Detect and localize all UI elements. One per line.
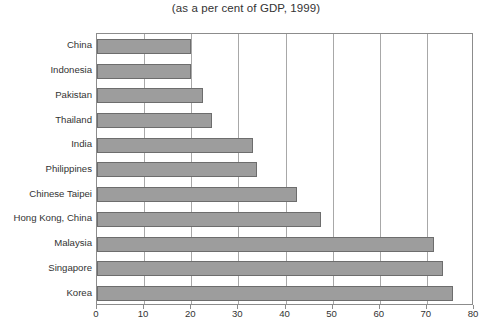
x-axis-label: 10 <box>123 308 163 319</box>
x-axis-tick <box>96 305 97 309</box>
bar-row <box>97 133 472 158</box>
bar-row <box>97 232 472 257</box>
y-axis-label: Pakistan <box>0 89 92 101</box>
x-axis-tick <box>190 305 191 309</box>
bar-row <box>97 83 472 108</box>
bar <box>97 286 453 301</box>
bar <box>97 138 253 153</box>
bar-row <box>97 59 472 84</box>
bar-row <box>97 182 472 207</box>
y-axis-label: India <box>0 138 92 150</box>
bar-row <box>97 108 472 133</box>
bar-row <box>97 257 472 282</box>
bar <box>97 39 191 54</box>
bar <box>97 212 321 227</box>
bar <box>97 187 297 202</box>
y-axis-label: Chinese Taipei <box>0 188 92 200</box>
bar <box>97 261 443 276</box>
bar-series <box>97 34 472 304</box>
y-axis-label: Philippines <box>0 163 92 175</box>
x-axis-label: 70 <box>406 308 446 319</box>
x-axis-label: 80 <box>453 308 492 319</box>
y-axis-label: Indonesia <box>0 64 92 76</box>
y-axis-label: Thailand <box>0 114 92 126</box>
bar-row <box>97 207 472 232</box>
bar <box>97 113 212 128</box>
x-axis-label: 20 <box>170 308 210 319</box>
bar-row <box>97 34 472 59</box>
x-axis-tick <box>379 305 380 309</box>
bar-row <box>97 158 472 183</box>
y-axis-label: Korea <box>0 287 92 299</box>
x-axis-tick <box>143 305 144 309</box>
x-axis-label: 50 <box>312 308 352 319</box>
plot-area <box>96 33 473 305</box>
x-axis-tick <box>426 305 427 309</box>
y-axis-label: Singapore <box>0 262 92 274</box>
x-axis-label: 30 <box>217 308 257 319</box>
y-axis-label: Hong Kong, China <box>0 212 92 224</box>
x-axis-label: 60 <box>359 308 399 319</box>
x-axis-tick-labels: 01020304050607080 <box>0 308 492 324</box>
bar-row <box>97 281 472 306</box>
bar <box>97 64 191 79</box>
x-axis-tick <box>473 305 474 309</box>
x-axis-label: 40 <box>265 308 305 319</box>
x-axis-label: 0 <box>76 308 116 319</box>
x-axis-tick <box>285 305 286 309</box>
chart-title: (as a per cent of GDP, 1999) <box>0 2 492 14</box>
bar <box>97 237 434 252</box>
y-axis-label: Malaysia <box>0 237 92 249</box>
bar <box>97 162 257 177</box>
x-axis-tick <box>332 305 333 309</box>
bar <box>97 88 203 103</box>
y-axis-category-labels: ChinaIndonesiaPakistanThailandIndiaPhili… <box>0 33 92 305</box>
y-axis-label: China <box>0 39 92 51</box>
chart-figure: (as a per cent of GDP, 1999) ChinaIndone… <box>0 0 492 334</box>
x-axis-tick <box>237 305 238 309</box>
